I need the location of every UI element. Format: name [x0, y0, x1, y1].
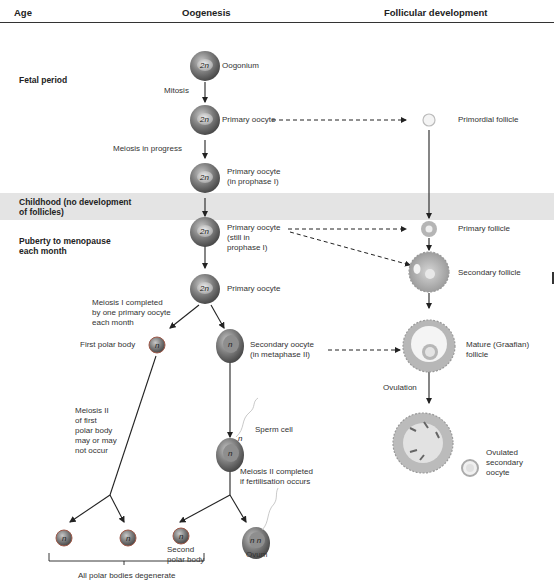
svg-text:n: n: [62, 534, 67, 543]
label-primary-follicle: Primary follicle: [458, 224, 510, 234]
label-meiosis2-first-3: polar body: [75, 426, 112, 436]
label-secondary-oocyte-2: (in metaphase II): [250, 350, 310, 360]
label-primordial-follicle: Primordial follicle: [458, 115, 518, 125]
secondary-oocyte-cell: n: [216, 329, 244, 363]
primary-oocyte-cell-2: 2n: [190, 274, 220, 304]
label-primary-oocyte-2: Primary oocyte: [227, 284, 280, 294]
label-meiosis2-first-2: of first: [75, 416, 97, 426]
label-first-polar-body: First polar body: [80, 340, 135, 350]
label-ovum: Ovum: [246, 550, 267, 560]
label-second-polar-body-1: Second: [167, 545, 194, 555]
label-primary-oocyte-still-2: (still in: [227, 233, 250, 243]
label-primary-oocyte-prophase-1: Primary oocyte: [227, 167, 280, 177]
label-meiosis1-line2: by one primary oocyte: [92, 308, 171, 318]
svg-text:n: n: [155, 341, 160, 350]
svg-text:2n: 2n: [199, 115, 209, 124]
label-mature-follicle-1: Mature (Graafian): [466, 340, 529, 350]
label-ovulation: Ovulation: [383, 383, 417, 393]
ovum-cell: n n: [242, 488, 278, 559]
label-meiosis2-first-5: not occur: [75, 446, 108, 456]
label-secondary-oocyte-1: Secondary oocyte: [250, 340, 314, 350]
age-puberty-line2: each month: [19, 246, 67, 257]
svg-text:n: n: [228, 449, 233, 458]
svg-text:2n: 2n: [199, 227, 209, 236]
ruptured-follicle: [393, 413, 453, 473]
label-ovulated-3: oocyte: [486, 468, 510, 478]
label-second-polar-body-2: polar body: [167, 555, 204, 565]
primordial-follicle: [423, 114, 435, 126]
svg-text:n n: n n: [250, 536, 262, 545]
label-primary-oocyte-still-1: Primary oocyte: [227, 223, 280, 233]
first-polar-body-cell: n: [149, 337, 165, 353]
label-sperm-cell: Sperm cell: [255, 425, 293, 435]
primary-follicle: [421, 221, 437, 237]
label-primary-oocyte-1: Primary oocyte: [222, 115, 275, 125]
label-oogonium: Oogonium: [222, 61, 259, 71]
label-meiosis2-completed-2: if fertilisation occurs: [240, 477, 310, 487]
polar-body-3: n: [173, 528, 189, 544]
polar-body-2: n: [120, 530, 136, 546]
ovulated-secondary-oocyte: [462, 460, 478, 476]
diagram-graphics: 2n 2n 2n 2n 2n n n n n: [0, 0, 554, 588]
label-meiosis1-line3: each month: [92, 318, 134, 328]
age-fetal-period: Fetal period: [19, 75, 67, 86]
svg-text:2n: 2n: [199, 173, 209, 182]
label-secondary-follicle: Secondary follicle: [458, 268, 521, 278]
age-puberty-line1: Puberty to menopause: [19, 236, 111, 247]
label-mitosis: Mitosis: [164, 86, 189, 96]
polar-body-1: n: [56, 530, 72, 546]
label-meiosis1-line1: Meiosis I completed: [92, 298, 163, 308]
svg-text:2n: 2n: [199, 61, 209, 70]
fertilised-oocyte-cell: n n: [216, 398, 258, 472]
label-ovulated-2: secondary: [486, 458, 523, 468]
label-meiosis2-first-4: may or may: [75, 436, 117, 446]
label-meiosis2-first-1: Meiosis II: [75, 406, 109, 416]
primary-oocyte-cell-still: 2n: [190, 217, 220, 247]
age-childhood-line2: of follicles): [19, 207, 64, 218]
label-all-polar-bodies-degenerate: All polar bodies degenerate: [78, 571, 175, 581]
svg-text:n: n: [238, 434, 243, 443]
label-primary-oocyte-prophase-2: (in prophase I): [227, 177, 279, 187]
label-primary-oocyte-still-3: prophase I): [227, 243, 267, 253]
label-mature-follicle-2: follicle: [466, 350, 488, 360]
label-meiosis-in-progress: Meiosis in progress: [113, 144, 182, 154]
age-childhood-line1: Childhood (no development: [19, 197, 131, 208]
svg-text:n: n: [228, 340, 233, 349]
oogonium-cell: 2n: [190, 51, 220, 81]
primary-oocyte-cell-prophase: 2n: [190, 163, 220, 193]
svg-text:2n: 2n: [199, 284, 209, 293]
primary-oocyte-cell-1: 2n: [190, 105, 220, 135]
label-ovulated-1: Ovulated: [486, 448, 518, 458]
secondary-follicle: [409, 252, 449, 292]
mature-graafian-follicle: [403, 320, 455, 372]
svg-text:n: n: [179, 532, 184, 541]
svg-text:n: n: [126, 534, 131, 543]
label-meiosis2-completed-1: Meiosis II completed: [240, 467, 313, 477]
